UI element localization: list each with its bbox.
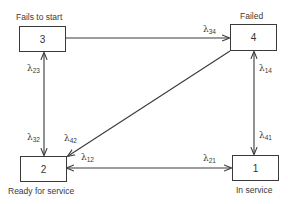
state-4-box: 4 xyxy=(230,24,277,51)
rate-lambda-21: λ21 xyxy=(203,153,216,164)
state-1-box: 1 xyxy=(232,155,279,181)
state-3-box: 3 xyxy=(19,26,66,52)
arrow-4-to-2 xyxy=(68,51,230,156)
rate-lambda-14: λ14 xyxy=(259,63,272,74)
rate-lambda-41: λ41 xyxy=(259,130,272,141)
state-2-box: 2 xyxy=(20,156,67,182)
state-2-number: 2 xyxy=(41,164,47,175)
rate-lambda-12: λ12 xyxy=(81,152,94,163)
rate-lambda-23: λ23 xyxy=(27,63,40,74)
state-1-label: In service xyxy=(236,185,272,195)
state-3-label: Fails to start xyxy=(16,12,62,22)
rate-lambda-34: λ34 xyxy=(203,24,216,35)
state-4-number: 4 xyxy=(251,32,257,43)
state-3-number: 3 xyxy=(40,34,46,45)
rate-lambda-32: λ32 xyxy=(27,132,40,143)
state-2-label: Ready for service xyxy=(8,186,74,196)
state-4-label: Failed xyxy=(240,11,263,21)
rate-lambda-42: λ42 xyxy=(64,133,77,144)
state-1-number: 1 xyxy=(253,163,259,174)
